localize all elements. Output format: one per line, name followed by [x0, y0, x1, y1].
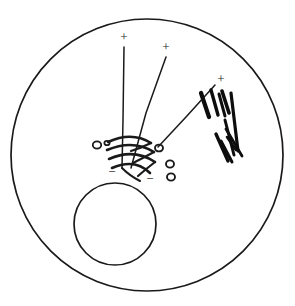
- charge-label-plus-3: +: [217, 71, 224, 86]
- charge-label-minus-2: −: [146, 171, 153, 186]
- charge-label-plus-2: +: [162, 39, 169, 54]
- figure-canvas: +++−−: [0, 0, 295, 306]
- track-3: [158, 85, 215, 147]
- hatch-mark-2: [211, 90, 218, 115]
- bubble-hits-group: [93, 141, 175, 181]
- bubble-1: [93, 141, 101, 148]
- spiral-tail: [122, 168, 140, 181]
- bubble-5: [167, 173, 175, 180]
- detector-inner-target-circle: [74, 183, 156, 265]
- bubble-2: [104, 141, 109, 145]
- track-1: [122, 47, 124, 168]
- spiral-arc-1: [108, 137, 151, 143]
- bubble-4: [166, 160, 174, 167]
- charge-label-plus-1: +: [120, 29, 127, 44]
- charge-label-minus-1: −: [108, 164, 115, 179]
- particle-detector-diagram: +++−−: [0, 0, 295, 306]
- shower-hatch-marks-group: [201, 90, 242, 162]
